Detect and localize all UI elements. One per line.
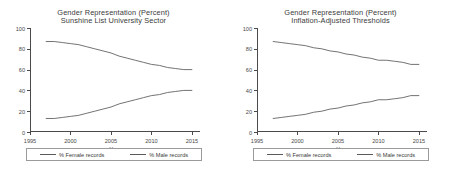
x-tick-mark — [70, 132, 71, 135]
chart-panel-right: Gender Representation (Percent) Inflatio… — [227, 0, 454, 171]
legend-line-icon-female — [40, 154, 56, 155]
legend-item-male: % Male records — [357, 152, 415, 158]
x-tick-mark — [419, 132, 420, 135]
series-line-femalerecords — [46, 42, 192, 70]
legend-label-female: % Female records — [286, 152, 331, 158]
plot-area: 020406080100 19952000200520102015 — [30, 28, 200, 132]
x-tick-label: 2010 — [145, 138, 157, 144]
x-tick-label: 2005 — [105, 138, 117, 144]
legend-label-female: % Female records — [59, 152, 104, 158]
y-tick-label: 100 — [243, 26, 252, 32]
x-tick-mark — [151, 132, 152, 135]
x-tick-label: 2015 — [413, 138, 425, 144]
chart-title-right: Gender Representation (Percent) Inflatio… — [227, 9, 454, 26]
y-tick-label: 40 — [246, 88, 252, 94]
x-tick-label: 2005 — [332, 138, 344, 144]
x-tick-label: 1995 — [251, 138, 263, 144]
chart-title-line-1: Gender Representation (Percent) — [0, 9, 227, 17]
x-tick-mark — [338, 132, 339, 135]
legend-label-male: % Male records — [149, 152, 188, 158]
series-lines — [30, 28, 200, 132]
x-tick-mark — [111, 132, 112, 135]
plot-region-left: 020406080100 19952000200520102015 Year — [30, 28, 200, 132]
x-tick-label: 2000 — [64, 138, 76, 144]
chart-title-left: Gender Representation (Percent) Sunshine… — [0, 9, 227, 26]
legend-line-icon-male — [357, 154, 373, 155]
legend-line-icon-male — [130, 154, 146, 155]
y-tick-label: 40 — [19, 88, 25, 94]
x-tick-mark — [30, 132, 31, 135]
plot-area: 020406080100 19952000200520102015 — [257, 28, 427, 132]
x-tick-label: 1995 — [24, 138, 36, 144]
x-tick-label: 2000 — [291, 138, 303, 144]
x-tick-label: 2015 — [186, 138, 198, 144]
chart-legend-right: % Female records % Male records — [253, 148, 429, 161]
x-tick-label: 2010 — [372, 138, 384, 144]
legend-line-icon-female — [267, 154, 283, 155]
y-tick-label: 20 — [19, 109, 25, 115]
series-line-malerecords — [46, 90, 192, 118]
x-tick-mark — [192, 132, 193, 135]
legend-item-female: % Female records — [40, 152, 104, 158]
two-panel-line-chart-figure: Gender Representation (Percent) Sunshine… — [0, 0, 454, 171]
series-lines — [257, 28, 427, 132]
y-tick-label: 60 — [19, 67, 25, 73]
chart-title-line-2: Inflation-Adjusted Thresholds — [227, 17, 454, 25]
x-tick-mark — [257, 132, 258, 135]
chart-panel-left: Gender Representation (Percent) Sunshine… — [0, 0, 227, 171]
y-tick-label: 0 — [249, 130, 252, 136]
chart-title-line-2: Sunshine List University Sector — [0, 17, 227, 25]
y-tick-label: 60 — [246, 67, 252, 73]
x-tick-mark — [297, 132, 298, 135]
chart-title-line-1: Gender Representation (Percent) — [227, 9, 454, 17]
chart-legend-left: % Female records % Male records — [26, 148, 202, 161]
plot-region-right: 020406080100 19952000200520102015 Year — [257, 28, 427, 132]
y-tick-label: 80 — [246, 46, 252, 52]
legend-item-male: % Male records — [130, 152, 188, 158]
series-line-femalerecords — [273, 42, 419, 65]
y-tick-label: 80 — [19, 46, 25, 52]
y-tick-label: 100 — [16, 26, 25, 32]
series-line-malerecords — [273, 96, 419, 119]
legend-item-female: % Female records — [267, 152, 331, 158]
legend-label-male: % Male records — [376, 152, 415, 158]
y-tick-label: 20 — [246, 109, 252, 115]
x-tick-mark — [378, 132, 379, 135]
y-tick-label: 0 — [22, 130, 25, 136]
